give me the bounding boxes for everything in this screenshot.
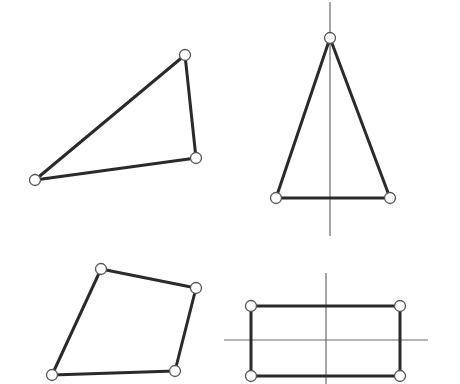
vertex-handle-icon[interactable] xyxy=(191,153,202,164)
vertex-handle-icon[interactable] xyxy=(246,371,257,382)
vertex-handle-icon[interactable] xyxy=(47,370,58,381)
vertex-handle-icon[interactable] xyxy=(385,193,396,204)
vertex-handle-icon[interactable] xyxy=(395,301,406,312)
scalene-triangle-edges xyxy=(35,55,196,180)
vertex-handle-icon[interactable] xyxy=(325,33,336,44)
irregular-quadrilateral xyxy=(47,264,202,381)
vertex-handle-icon[interactable] xyxy=(96,264,107,275)
irregular-quadrilateral-edges xyxy=(52,269,196,375)
vertex-handle-icon[interactable] xyxy=(271,193,282,204)
vertex-handle-icon[interactable] xyxy=(246,301,257,312)
vertex-handle-icon[interactable] xyxy=(191,283,202,294)
isosceles-triangle-edges xyxy=(276,38,390,198)
vertex-handle-icon[interactable] xyxy=(170,366,181,377)
scalene-triangle xyxy=(30,50,202,186)
diagram-canvas xyxy=(0,0,460,384)
rectangle xyxy=(224,273,428,384)
isosceles-triangle xyxy=(271,2,396,236)
vertex-handle-icon[interactable] xyxy=(30,175,41,186)
vertex-handle-icon[interactable] xyxy=(395,371,406,382)
vertex-handle-icon[interactable] xyxy=(180,50,191,61)
